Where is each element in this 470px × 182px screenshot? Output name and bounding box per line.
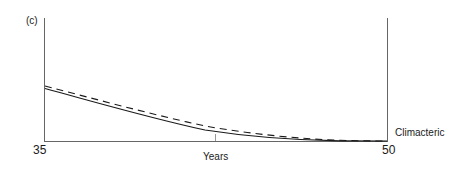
- panel-label: (c): [26, 16, 38, 26]
- x-axis-tick-label-right: 50: [382, 144, 395, 156]
- x-axis-tick-label-left: 35: [33, 144, 46, 156]
- solid-curve: [45, 89, 387, 142]
- figure-panel-c: (c) 35 50 Years Climacteric: [0, 0, 470, 182]
- dashed-curve: [45, 86, 387, 141]
- chart-plot-area: [0, 0, 470, 182]
- climacteric-annotation-label: Climacteric: [395, 128, 444, 138]
- x-axis-title: Years: [203, 152, 228, 162]
